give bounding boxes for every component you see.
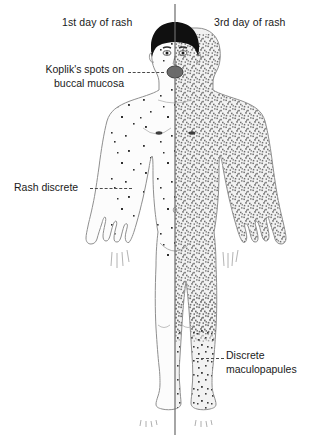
fingers-left (111, 250, 129, 268)
fingers-right (223, 250, 238, 268)
toes-left (140, 420, 157, 427)
label-rash-discrete: Rash discrete (14, 181, 78, 195)
leader-line-koplik (128, 72, 164, 73)
measles-rash-figure: 1st day of rash 3rd day of rash Koplik's… (0, 0, 312, 439)
toes-right (195, 420, 212, 427)
label-maculopapules: Discrete maculopapules (226, 349, 297, 376)
label-macpap-line1: Discrete (226, 349, 297, 363)
label-koplik-line2: buccal mucosa (14, 77, 124, 91)
label-koplik-line1: Koplik's spots on (14, 63, 124, 77)
label-macpap-line2: maculopapules (226, 363, 297, 377)
pupil-right (182, 52, 185, 55)
nipple-left (156, 131, 163, 134)
nipple-right (189, 131, 196, 134)
leader-line-rash (90, 188, 132, 189)
caption-third-day: 3rd day of rash (214, 16, 286, 29)
caption-first-day: 1st day of rash (62, 16, 132, 29)
label-koplik-spots: Koplik's spots on buccal mucosa (14, 63, 124, 90)
leader-line-maculopapules (196, 358, 224, 359)
label-rash-line1: Rash discrete (14, 181, 78, 195)
pupil-left (166, 52, 169, 55)
